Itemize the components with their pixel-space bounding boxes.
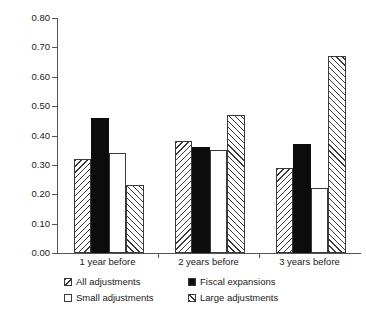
legend-item: All adjustments [64,277,188,287]
y-axis-tick-label: 0.10 [0,219,50,229]
y-axis-tick-label: 0.20 [0,190,50,200]
chart-legend: All adjustmentsFiscal expansionsSmall ad… [64,274,316,306]
legend-label: Large adjustments [200,293,278,303]
bar [91,118,109,253]
bar [192,147,210,253]
bar [175,141,193,253]
y-axis-tick-label: 0.30 [0,160,50,170]
x-axis-category-label: 1 year before [58,256,158,267]
bar [109,153,127,253]
bar [210,150,228,253]
bar [293,144,311,253]
legend-swatch-icon [188,294,196,302]
bar [311,188,329,253]
legend-swatch-icon [188,278,196,286]
x-axis-line [57,253,361,254]
bar [74,159,92,253]
legend-label: All adjustments [76,277,140,287]
x-axis-category-label: 2 years before [159,256,259,267]
y-axis-tick-label: 0.70 [0,43,50,53]
bar [276,168,294,253]
legend-item: Large adjustments [188,293,316,303]
bar [126,185,144,253]
x-axis-category-label: 3 years before [260,256,360,267]
legend-label: Small adjustments [76,293,154,303]
y-axis-tick-label: 0.50 [0,101,50,111]
legend-swatch-icon [64,278,72,286]
y-axis-tick-label: 0.00 [0,248,50,258]
y-axis-tick-label: 0.80 [0,13,50,23]
plot-area [57,18,360,253]
legend-label: Fiscal expansions [200,277,276,287]
legend-item: Fiscal expansions [188,277,316,287]
legend-item: Small adjustments [64,293,188,303]
y-axis-tick-mark [52,253,57,254]
bar [328,56,346,253]
bar [227,115,245,253]
legend-swatch-icon [64,294,72,302]
y-axis-tick-label: 0.40 [0,131,50,141]
y-axis-tick-label: 0.60 [0,72,50,82]
bar-chart: 0.000.100.200.300.400.500.600.700.80 1 y… [0,0,366,311]
